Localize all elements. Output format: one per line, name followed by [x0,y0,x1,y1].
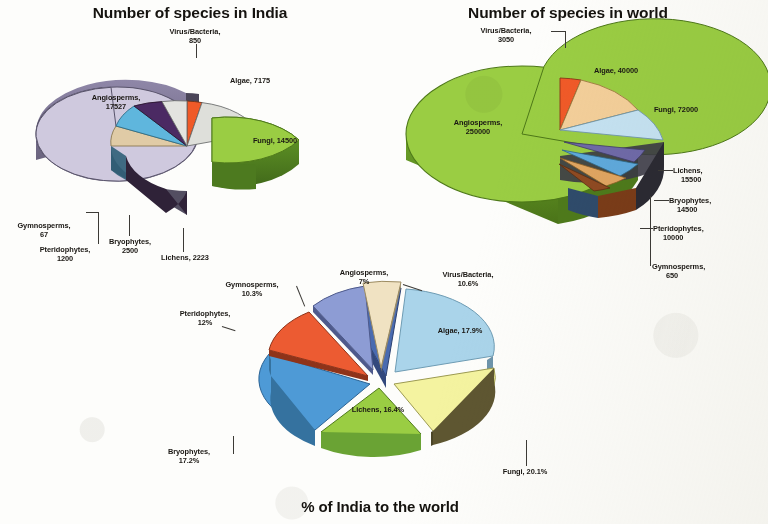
world-leader-lichens [658,170,673,171]
india-label-gymnosperms: Gymnosperms, 67 [2,221,86,240]
india-leader-lichens [183,228,184,252]
percent-india-to-world-chart: Virus/Bacteria, 10.6% Algae, 17.9% Fungi… [150,262,630,524]
pct-label-gymnosperms: Gymnosperms, 10.3% [205,280,299,299]
world-leader-bryophytes [654,200,669,201]
pct-leader-fungi [526,440,527,466]
india-label-virus-bacteria: Virus/Bacteria, 850 [150,27,240,46]
india-leader-gymnosperms [86,212,98,213]
pct-label-bryophytes: Bryophytes, 17.2% [144,447,234,466]
india-leader-virus [196,44,197,58]
india-label-angiosperms: Angiosperms, 17527 [68,93,164,112]
world-leader-pteridophytes [640,228,653,229]
pct-label-algae: Algae, 17.9% [415,326,505,335]
india-leader-bryophytes [129,215,130,236]
india-chart-title: Number of species in India [30,4,350,22]
india-species-chart: Number of species in India [0,0,380,280]
world-leader-gymnosperms [650,196,651,266]
pct-label-virus-bacteria: Virus/Bacteria, 10.6% [422,270,514,289]
world-label-pteridophytes: Pteridophytes, 10000 [653,224,747,243]
india-slice-fungi [212,115,302,190]
pct-label-pteridophytes: Pteridophytes, 12% [158,309,252,328]
world-species-chart: Number of species in world [388,0,768,300]
india-leader-pteridophytes [98,212,99,244]
world-leader-virus [551,31,565,32]
pct-label-lichens: Lichens, 16.4% [333,405,423,414]
world-label-lichens: Lichens, 15500 [673,166,753,185]
world-leader-virus-2 [565,31,566,48]
pct-label-fungi: Fungi, 20.1% [480,467,570,476]
india-label-pteridophytes: Pteridophytes, 1200 [22,245,108,264]
world-label-fungi: Fungi, 72000 [628,105,724,114]
percent-pie-graphic [205,280,545,480]
india-label-fungi: Fungi, 14500 [230,136,320,145]
world-chart-title: Number of species in world [408,4,728,22]
pct-leader-bryophytes [233,436,234,454]
pct-label-angiosperms: Angiosperms, 7% [318,268,410,287]
world-label-algae: Algae, 40000 [568,66,664,75]
percent-chart-caption: % of India to the world [240,498,520,515]
world-label-bryophytes: Bryophytes, 14500 [669,196,755,215]
pct-slice-algae [395,289,494,384]
world-label-angiosperms: Angiosperms, 250000 [428,118,528,137]
india-label-algae: Algae, 7175 [205,76,295,85]
world-label-virus-bacteria: Virus/Bacteria, 3050 [460,26,552,45]
world-label-gymnosperms: Gymnosperms, 650 [652,262,744,281]
